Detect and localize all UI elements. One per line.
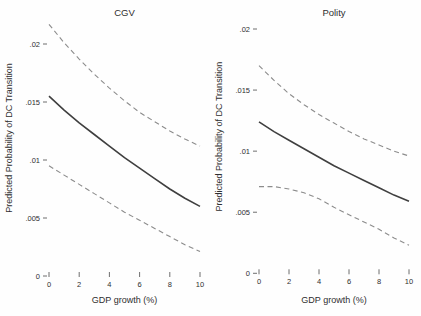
y-tick-label: .02 <box>240 25 250 34</box>
y-tick-label: .01 <box>30 156 40 165</box>
x-axis-label: GDP growth (%) <box>301 295 366 305</box>
figure: CGV Predicted Probability of DC Transiti… <box>0 0 421 316</box>
x-tick-label: 10 <box>405 277 413 286</box>
x-axis-ticks: 0246810 <box>257 269 413 286</box>
chart-polity: Polity Predicted Probability of DC Trans… <box>214 7 413 305</box>
chart-cgv: CGV Predicted Probability of DC Transiti… <box>4 7 204 305</box>
charts-canvas: CGV Predicted Probability of DC Transiti… <box>0 0 421 316</box>
y-tick-label: 0 <box>246 269 250 278</box>
x-axis-ticks: 0246810 <box>47 272 204 289</box>
y-tick-label: .02 <box>30 40 40 49</box>
series-lines <box>259 66 409 246</box>
y-axis-ticks: 0.005.01.015.02 <box>25 40 47 281</box>
x-tick-label: 6 <box>347 277 351 286</box>
upper-confidence-bound-line <box>259 66 409 156</box>
x-tick-label: 4 <box>317 277 321 286</box>
series-lines <box>49 24 200 251</box>
x-tick-label: 8 <box>377 277 381 286</box>
x-tick-label: 0 <box>47 280 51 289</box>
y-tick-label: .015 <box>25 98 40 107</box>
x-tick-label: 6 <box>138 280 142 289</box>
x-tick-label: 2 <box>287 277 291 286</box>
x-tick-label: 10 <box>196 280 204 289</box>
lower-confidence-bound-line <box>49 166 200 252</box>
y-axis-label: Predicted Probability of DC Transition <box>214 62 224 212</box>
chart-title: Polity <box>322 7 345 18</box>
x-tick-label: 8 <box>168 280 172 289</box>
upper-confidence-bound-line <box>49 24 200 146</box>
x-tick-label: 0 <box>257 277 261 286</box>
y-axis-ticks: 0.005.01.015.02 <box>235 25 257 278</box>
predicted-probability-line <box>49 96 200 206</box>
predicted-probability-line <box>259 122 409 201</box>
x-axis-label: GDP growth (%) <box>92 295 157 305</box>
x-tick-label: 4 <box>107 280 111 289</box>
y-tick-label: .005 <box>235 208 250 217</box>
y-axis-label: Predicted Probability of DC Transition <box>4 63 14 213</box>
lower-confidence-bound-line <box>259 187 409 246</box>
y-tick-label: .005 <box>25 214 40 223</box>
y-tick-label: .01 <box>240 147 250 156</box>
y-tick-label: 0 <box>36 272 40 281</box>
y-tick-label: .015 <box>235 86 250 95</box>
chart-title: CGV <box>114 7 135 18</box>
x-tick-label: 2 <box>77 280 81 289</box>
